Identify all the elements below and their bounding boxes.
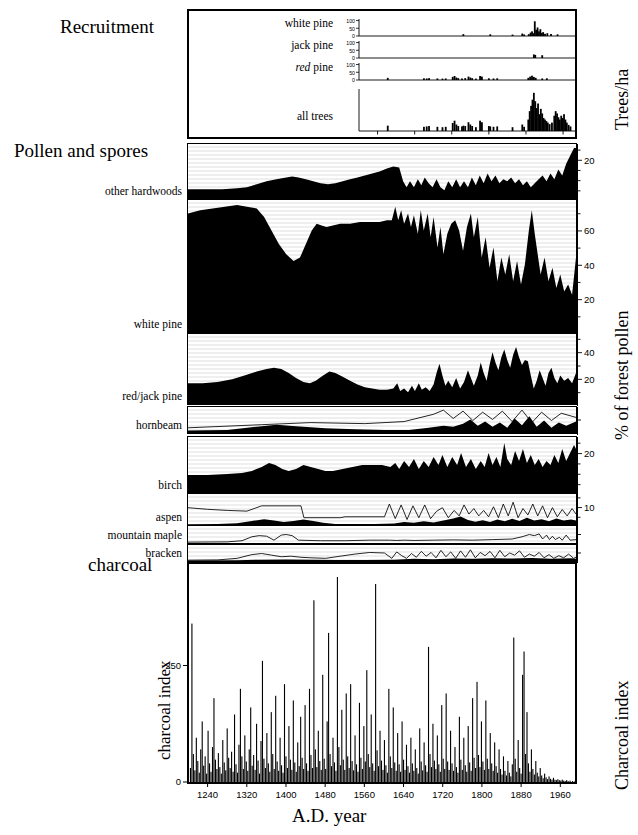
recruitment-label-white-pine: white pine — [228, 17, 333, 29]
svg-text:1720: 1720 — [432, 789, 453, 800]
pollen-label-other-hardwoods: other hardwoods — [27, 185, 182, 197]
pollen-curve-6 — [188, 526, 576, 543]
pollen-axis-svg-0: 20 — [577, 143, 617, 202]
svg-text:10: 10 — [584, 502, 595, 513]
svg-text:100: 100 — [346, 40, 355, 46]
svg-text:100: 100 — [346, 18, 355, 24]
pollen-axis-svg-3 — [577, 406, 617, 436]
figure-root: Recruitment Pollen and spores charcoal A… — [0, 0, 638, 835]
pollen-label-birch: birch — [27, 479, 182, 491]
svg-text:1800: 1800 — [479, 135, 499, 139]
svg-text:1560: 1560 — [354, 789, 375, 800]
svg-text:20: 20 — [584, 155, 595, 166]
svg-text:1960: 1960 — [553, 135, 573, 139]
pollen-axis-svg-7 — [577, 544, 617, 564]
pollen-axis-svg-1: 204060 — [577, 199, 617, 335]
pollen-curve-1 — [188, 200, 576, 332]
svg-text:0: 0 — [176, 776, 181, 787]
pollen-curve-2 — [188, 334, 576, 404]
svg-text:1720: 1720 — [442, 135, 462, 139]
svg-text:20: 20 — [584, 294, 595, 305]
svg-text:1320: 1320 — [236, 789, 257, 800]
svg-text:0: 0 — [352, 77, 355, 83]
recruitment-section-title: Recruitment — [60, 16, 154, 38]
svg-text:1480: 1480 — [315, 789, 336, 800]
pollen-curve-4 — [188, 437, 576, 493]
charcoal-yaxis: 0250 — [148, 563, 188, 788]
recruitment-label-jack-pine: jack pine — [228, 39, 333, 51]
svg-text:1400: 1400 — [275, 789, 296, 800]
svg-text:50: 50 — [349, 26, 355, 32]
pollen-curve-5 — [188, 494, 576, 525]
svg-text:0: 0 — [352, 55, 355, 61]
right-axis-title-trees-ha: Trees/ha — [612, 69, 633, 130]
svg-text:1240: 1240 — [197, 789, 218, 800]
svg-text:20: 20 — [584, 374, 595, 385]
svg-text:250: 250 — [165, 660, 181, 671]
recruitment-label-all-trees: all trees — [228, 110, 333, 122]
pollen-label-bracken: bracken — [27, 547, 182, 559]
pollen-label-red-jack-pine: red/jack pine — [27, 390, 182, 402]
pollen-label-aspen: aspen — [27, 511, 182, 523]
pollen-curve-3 — [188, 407, 576, 433]
pollen-axis-svg-6 — [577, 525, 617, 546]
pollen-label-mountain-maple: mountain maple — [27, 529, 182, 541]
recruitment-label-red-pine: red pine — [228, 61, 333, 73]
svg-text:100: 100 — [346, 62, 355, 68]
pollen-label-white-pine: white pine — [27, 318, 182, 330]
pollen-curve-0 — [188, 144, 576, 199]
svg-text:20: 20 — [584, 448, 595, 459]
svg-text:40: 40 — [584, 260, 595, 271]
svg-text:1800: 1800 — [471, 789, 492, 800]
svg-text:1880: 1880 — [511, 789, 532, 800]
svg-text:1880: 1880 — [516, 135, 536, 139]
pollen-curve-7 — [188, 545, 576, 561]
svg-text:40: 40 — [584, 347, 595, 358]
pollen-axis-svg-2: 2040 — [577, 333, 617, 407]
recruitment-plots: 0501000501000501001560164017201800188019… — [335, 9, 581, 139]
pollen-axis-svg-5: 10 — [577, 493, 617, 528]
svg-text:0: 0 — [352, 33, 355, 39]
svg-text:1960: 1960 — [550, 789, 571, 800]
svg-text:50: 50 — [349, 48, 355, 54]
svg-text:1640: 1640 — [393, 789, 414, 800]
svg-text:50: 50 — [349, 70, 355, 76]
svg-text:1560: 1560 — [368, 135, 388, 139]
pollen-section-title: Pollen and spores — [14, 140, 148, 162]
pollen-label-hornbeam: hornbeam — [27, 419, 182, 431]
charcoal-chart — [188, 563, 575, 782]
svg-text:1640: 1640 — [405, 135, 425, 139]
pollen-axis-svg-4: 20 — [577, 436, 617, 496]
svg-text:60: 60 — [584, 225, 595, 236]
charcoal-xaxis: 1240132014001480156016401720180018801960 — [160, 782, 580, 835]
right-axis-title-charcoal-index: Charcoal index — [612, 681, 633, 790]
